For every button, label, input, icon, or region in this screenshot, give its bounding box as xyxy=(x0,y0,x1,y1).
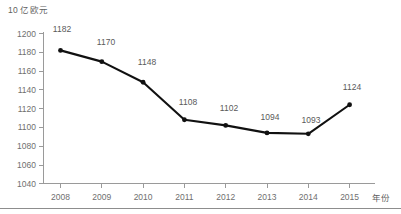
line-chart: 10 亿欧元 1200 1180 1160 1140 1120 1100 108… xyxy=(0,0,401,214)
data-label: 1170 xyxy=(97,37,116,47)
series-marker xyxy=(347,102,352,107)
y-tick-label: 1040 xyxy=(17,179,36,189)
y-tick-label: 1060 xyxy=(17,160,36,170)
x-axis-ticks xyxy=(61,184,350,189)
data-label: 1124 xyxy=(343,82,362,92)
y-tick-label: 1140 xyxy=(18,85,37,95)
chart-plot-area: 1200 1180 1160 1140 1120 1100 1080 1060 … xyxy=(0,0,401,214)
series-marker xyxy=(265,130,270,135)
series-marker xyxy=(58,48,63,53)
data-label: 1148 xyxy=(138,57,157,67)
series-marker xyxy=(99,59,104,64)
data-value-labels: 1182 1170 1148 1108 1102 1094 1093 1124 xyxy=(53,24,362,125)
data-label: 1108 xyxy=(179,97,198,107)
series-marker xyxy=(182,117,187,122)
x-tick-label: 2015 xyxy=(340,192,359,202)
x-tick-label: 2009 xyxy=(92,192,111,202)
x-tick-label: 2013 xyxy=(258,192,277,202)
data-label: 1102 xyxy=(220,103,239,113)
series-marker xyxy=(223,123,228,128)
y-axis-ticks xyxy=(39,34,44,184)
series-marker xyxy=(141,80,146,85)
y-tick-label: 1120 xyxy=(18,104,37,114)
y-axis-tick-labels: 1200 1180 1160 1140 1120 1100 1080 1060 … xyxy=(17,29,36,189)
x-tick-label: 2012 xyxy=(216,192,235,202)
y-tick-label: 1080 xyxy=(17,141,36,151)
x-tick-label: 2011 xyxy=(175,192,194,202)
data-label: 1182 xyxy=(53,24,72,34)
x-tick-label: 2008 xyxy=(51,192,70,202)
series-marker xyxy=(306,131,311,136)
data-label: 1094 xyxy=(261,112,280,122)
x-tick-label: 2014 xyxy=(299,192,318,202)
y-tick-label: 1200 xyxy=(17,29,36,39)
y-tick-label: 1180 xyxy=(18,47,37,57)
x-axis-title: 年份 xyxy=(372,193,390,204)
x-axis-tick-labels: 2008 2009 2010 2011 2012 2013 2014 2015 xyxy=(51,192,359,202)
y-tick-label: 1160 xyxy=(18,66,37,76)
y-tick-label: 1100 xyxy=(18,122,37,132)
bottom-divider xyxy=(0,208,401,209)
x-tick-label: 2010 xyxy=(134,192,153,202)
data-label: 1093 xyxy=(302,115,321,125)
